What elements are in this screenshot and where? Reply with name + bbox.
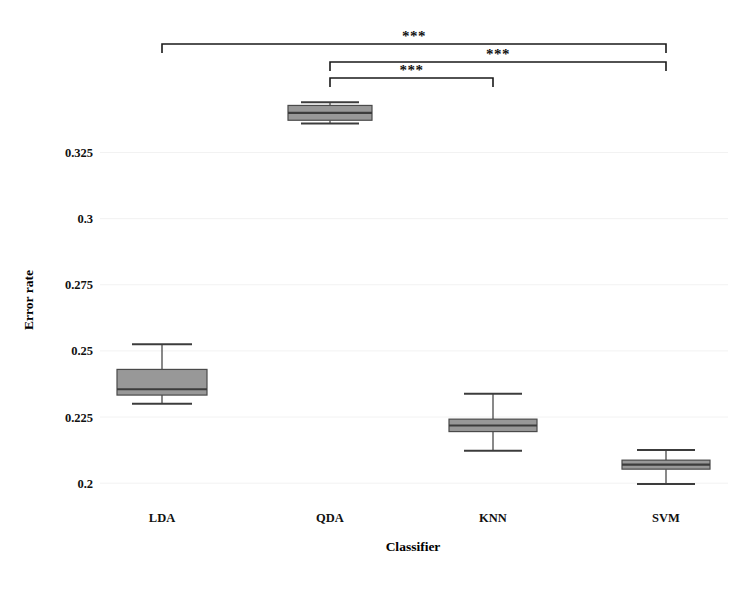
y-axis-tick-label: 0.3 bbox=[77, 212, 93, 226]
y-axis-tick-label: 0.2 bbox=[77, 477, 93, 491]
significance-label-qda-svm: *** bbox=[486, 46, 510, 62]
y-axis-tick-label: 0.25 bbox=[71, 344, 93, 358]
y-axis-tick-label: 0.325 bbox=[65, 146, 93, 160]
box-iqr bbox=[117, 369, 207, 395]
significance-label-qda-knn: *** bbox=[400, 62, 424, 78]
figure-background bbox=[0, 0, 740, 589]
y-axis-tick-label: 0.275 bbox=[65, 278, 93, 292]
y-axis-tick-label: 0.225 bbox=[65, 411, 93, 425]
boxplot-qda bbox=[288, 102, 372, 123]
y-axis-title: Error rate bbox=[21, 270, 36, 330]
x-axis-category-label-lda: LDA bbox=[149, 511, 175, 525]
boxplot-figure: 0.3250.30.2750.250.2250.2 ********* LDAQ… bbox=[0, 0, 740, 589]
x-axis-title: Classifier bbox=[386, 539, 441, 554]
x-axis-category-label-svm: SVM bbox=[652, 511, 680, 525]
significance-label-lda-svm: *** bbox=[402, 28, 426, 44]
x-axis-category-label-qda: QDA bbox=[316, 511, 344, 525]
boxplot-canvas: 0.3250.30.2750.250.2250.2 ********* LDAQ… bbox=[0, 0, 740, 589]
x-axis-category-label-knn: KNN bbox=[479, 511, 507, 525]
